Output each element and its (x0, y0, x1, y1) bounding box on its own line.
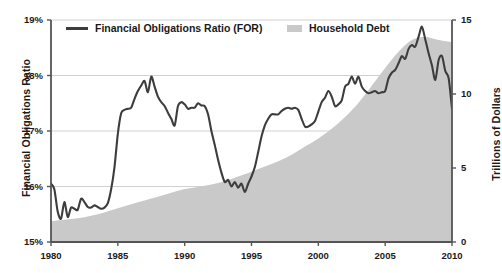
legend-label-for: Financial Obligations Ratio (FOR) (95, 22, 262, 34)
x-axis-tick-label: 1990 (163, 250, 207, 261)
x-axis-tick-label: 1980 (29, 250, 73, 261)
y-axis-right-tick-label: 10 (461, 88, 472, 99)
x-axis-tick-label: 1985 (96, 250, 140, 261)
y-axis-left-tick-label: 19% (9, 14, 43, 25)
y-axis-right-tick-label: 5 (461, 162, 466, 173)
y-axis-right-tick-label: 15 (461, 14, 472, 25)
legend-item-for: Financial Obligations Ratio (FOR) (66, 22, 262, 34)
y-axis-left-tick-label: 18% (9, 70, 43, 81)
y-axis-left-tick-label: 15% (9, 236, 43, 247)
x-axis-tick-label: 2000 (296, 250, 340, 261)
legend-line-swatch-icon (66, 27, 88, 30)
x-axis-tick-label: 1995 (230, 250, 274, 261)
y-axis-right-title: Trillions of Dollars (490, 54, 502, 214)
legend-item-household-debt: Household Debt (287, 22, 390, 34)
legend-area-swatch-icon (287, 25, 302, 32)
x-axis-tick-label: 2005 (363, 250, 407, 261)
legend-label-household-debt: Household Debt (309, 22, 390, 34)
x-axis-tick-label: 2010 (430, 250, 474, 261)
y-axis-left-tick-label: 16% (9, 181, 43, 192)
y-axis-left-tick-label: 17% (9, 125, 43, 136)
y-axis-right-tick-label: 0 (461, 236, 466, 247)
household-debt-area (51, 37, 452, 242)
